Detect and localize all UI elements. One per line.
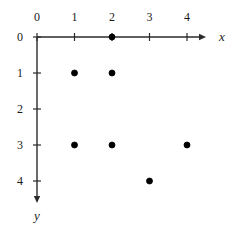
axis-ticks-group	[33, 33, 187, 181]
plot-canvas	[0, 0, 238, 234]
data-point	[72, 70, 78, 76]
data-points-group	[72, 34, 191, 184]
axes-group	[34, 34, 206, 203]
data-point	[72, 142, 78, 148]
data-point	[109, 70, 115, 76]
data-point	[109, 34, 115, 40]
data-point	[147, 178, 153, 184]
y-axis-arrow-icon	[34, 196, 40, 203]
scatter-plot-figure: 01234 01234 x y	[0, 0, 238, 234]
x-axis-arrow-icon	[199, 34, 206, 40]
data-point	[109, 142, 115, 148]
data-point	[184, 142, 190, 148]
